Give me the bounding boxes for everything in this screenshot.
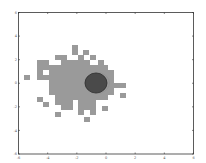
x-tick-label: -2	[75, 156, 79, 160]
data-cell	[78, 80, 84, 85]
data-cell	[72, 65, 78, 70]
data-cell	[108, 90, 114, 95]
data-cell	[55, 65, 61, 70]
y-tick-label: 0	[15, 81, 17, 85]
data-cell	[84, 95, 90, 100]
data-cell	[55, 95, 61, 100]
data-cell	[43, 65, 49, 70]
data-cell	[61, 90, 67, 95]
data-cell	[72, 75, 78, 80]
data-cell	[61, 65, 67, 70]
data-cell	[98, 60, 104, 65]
chart: -6-4-20246 6420-2-4-6	[0, 0, 206, 163]
data-cell	[78, 110, 84, 115]
data-cell	[37, 65, 43, 70]
data-cell	[72, 95, 78, 100]
data-cell	[72, 45, 78, 50]
data-cell	[78, 100, 84, 105]
data-cell	[90, 100, 96, 105]
data-cell	[24, 75, 30, 80]
data-cell	[37, 75, 43, 80]
data-cell	[61, 95, 67, 100]
data-cell	[78, 55, 84, 60]
data-cell	[55, 100, 61, 105]
y-tick-label: 2	[15, 58, 17, 62]
data-cell	[90, 65, 96, 70]
data-cell	[72, 70, 78, 75]
data-cell	[43, 75, 49, 80]
data-cell	[61, 60, 67, 65]
data-cell	[96, 65, 102, 70]
data-cell	[90, 105, 96, 110]
data-cell	[90, 95, 96, 100]
data-cell	[67, 100, 73, 105]
data-cell	[37, 70, 43, 75]
data-cell	[120, 93, 126, 98]
data-cell	[102, 95, 108, 100]
data-cell	[78, 105, 84, 110]
data-cell	[84, 70, 90, 75]
y-tick-label: -6	[14, 152, 18, 156]
data-cell	[84, 65, 90, 70]
x-tick-label: 2	[134, 156, 136, 160]
x-tick-label: 6	[192, 156, 194, 160]
data-cell	[108, 70, 114, 75]
data-cell	[120, 83, 126, 88]
data-cell	[102, 70, 108, 75]
data-cell	[55, 112, 61, 117]
data-cell	[78, 95, 84, 100]
data-cell	[72, 90, 78, 95]
data-cell	[114, 83, 120, 88]
data-cell	[83, 50, 89, 55]
y-tick-label: 6	[15, 11, 17, 15]
x-tick-label: -6	[17, 156, 21, 160]
data-cell	[49, 85, 55, 90]
data-cell	[67, 105, 73, 110]
data-cell	[96, 95, 102, 100]
data-cell	[78, 90, 84, 95]
data-cell	[78, 65, 84, 70]
data-cell	[49, 75, 55, 80]
data-cell	[49, 90, 55, 95]
data-cell	[84, 60, 90, 65]
data-cell	[61, 80, 67, 85]
data-cell	[55, 70, 61, 75]
data-cell	[84, 105, 90, 110]
data-cell	[102, 65, 108, 70]
data-cell	[55, 90, 61, 95]
data-cell	[61, 70, 67, 75]
data-cell	[72, 80, 78, 85]
y-tick-label: -2	[14, 105, 18, 109]
data-cell	[72, 60, 78, 65]
data-cell	[61, 100, 67, 105]
data-cell	[61, 105, 67, 110]
data-cell	[78, 85, 84, 90]
data-cell	[49, 80, 55, 85]
data-cell	[84, 117, 90, 122]
data-cell	[72, 50, 78, 55]
data-cell	[37, 60, 43, 65]
fit-ellipse	[85, 73, 110, 94]
x-tick-label: 0	[105, 156, 107, 160]
data-cell	[49, 65, 55, 70]
data-cell	[102, 106, 108, 111]
data-cell	[72, 85, 78, 90]
data-cell	[43, 102, 49, 107]
data-cell	[84, 100, 90, 105]
data-cell	[55, 55, 61, 60]
data-cell	[37, 97, 43, 102]
data-cell	[55, 80, 61, 85]
data-cell	[55, 75, 61, 80]
data-cell	[78, 70, 84, 75]
data-cell	[43, 60, 49, 65]
data-cell	[78, 75, 84, 80]
data-cell	[61, 75, 67, 80]
data-cell	[61, 85, 67, 90]
data-cell	[61, 55, 67, 60]
data-cell	[90, 110, 96, 115]
data-cell	[55, 85, 61, 90]
data-cell	[78, 60, 84, 65]
data-cell	[90, 55, 96, 60]
data-cell	[49, 70, 55, 75]
